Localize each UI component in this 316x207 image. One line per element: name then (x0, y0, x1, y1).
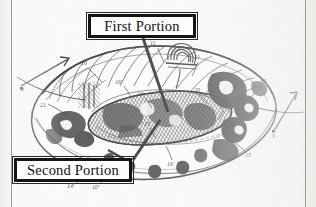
numeral-16c: 16 (137, 91, 143, 97)
numeral-15: 15 (144, 121, 150, 127)
patent-figure-canvas: 8 21 16 16' 16 11 21 20 17 19 15 16' 13 … (0, 0, 316, 207)
callout-label-second-portion: Second Portion (27, 163, 119, 178)
page-margin-rule-right (305, 0, 306, 207)
numeral-11: 11 (150, 40, 156, 46)
page-margin-rule-left (11, 0, 12, 207)
callout-box-first-portion: First Portion (88, 14, 196, 38)
numeral-16a: 16 (81, 60, 87, 66)
numeral-14: 14' (67, 183, 75, 189)
numeral-9: 9 (272, 133, 275, 139)
numeral-17: 17 (220, 104, 227, 110)
numeral-21a: 21 (40, 102, 46, 108)
callout-label-first-portion: First Portion (104, 19, 180, 34)
numeral-21b: 21 (194, 54, 200, 60)
numeral-19: 19 (260, 78, 266, 84)
numeral-8a: 8 (21, 86, 24, 92)
numeral-16b: 16' (115, 79, 123, 85)
numeral-20: 20 (194, 87, 200, 93)
numeral-16d: 16' (167, 161, 175, 167)
numeral-13: 13 (245, 152, 251, 158)
callout-box-second-portion: Second Portion (14, 158, 132, 182)
numeral-10: 10' (92, 184, 100, 190)
